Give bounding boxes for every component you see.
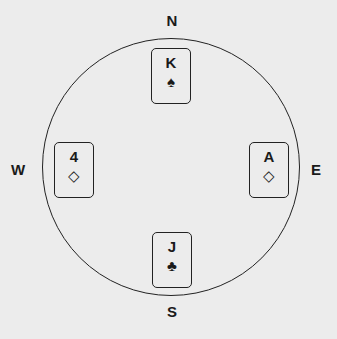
direction-north-label: N [162, 12, 182, 29]
diamond-icon: ◇ [55, 167, 93, 185]
direction-east-label: E [306, 161, 326, 178]
direction-west-label: W [8, 161, 28, 178]
card-east: A ◇ [249, 142, 289, 198]
spade-icon: ♠ [152, 73, 190, 91]
card-rank: J [153, 239, 191, 255]
card-rank: A [250, 149, 288, 165]
direction-south-label: S [162, 303, 182, 320]
card-south: J ♣ [152, 232, 192, 288]
diamond-icon: ◇ [250, 167, 288, 185]
card-rank: 4 [55, 149, 93, 165]
card-north: K ♠ [151, 48, 191, 104]
card-west: 4 ◇ [54, 142, 94, 198]
club-icon: ♣ [153, 257, 191, 275]
card-rank: K [152, 55, 190, 71]
